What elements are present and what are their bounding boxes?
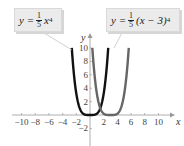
label-right-lhs: y =: [111, 14, 126, 26]
y-tick-label: −2: [78, 123, 88, 133]
y-tick-label: 2: [84, 97, 89, 107]
ticks: xy−10−8−6−4−2246810−2246810: [14, 32, 181, 133]
leader-left: [44, 33, 72, 50]
x-tick-label: 4: [115, 117, 120, 127]
label-right-fraction: 1 5: [128, 12, 134, 29]
x-tick-label: −6: [44, 117, 54, 127]
x-axis-arrow-icon: [170, 113, 175, 118]
y-axis-label: y: [80, 32, 86, 43]
leader-right: [114, 33, 122, 48]
curve-shifted-quartic: [92, 48, 128, 115]
label-left-den: 5: [37, 21, 41, 29]
label-right-exp: 4: [167, 16, 171, 24]
label-right-expr: (x − 3): [136, 14, 167, 26]
label-left-curve: y = 1 5 x4: [14, 8, 62, 32]
x-tick-label: 8: [143, 117, 148, 127]
y-axis-arrow-icon: [88, 33, 93, 38]
y-tick-label: 6: [84, 70, 89, 80]
label-right-curve: y = 1 5 (x − 3)4: [106, 8, 180, 32]
label-right-den: 5: [129, 21, 133, 29]
x-tick-label: −8: [30, 117, 40, 127]
label-left-exp: 4: [49, 16, 53, 24]
x-tick-label: 2: [101, 117, 106, 127]
y-tick-label: 8: [84, 56, 89, 66]
x-tick-label: −10: [14, 117, 29, 127]
curves: [72, 48, 129, 115]
x-axis-label: x: [175, 116, 181, 127]
x-tick-label: 10: [154, 117, 164, 127]
x-tick-label: 6: [129, 117, 134, 127]
y-tick-label: 4: [84, 83, 89, 93]
label-left-fraction: 1 5: [36, 12, 42, 29]
x-tick-label: −4: [58, 117, 68, 127]
label-left-lhs: y =: [19, 14, 34, 26]
y-tick-label: 10: [79, 43, 89, 53]
